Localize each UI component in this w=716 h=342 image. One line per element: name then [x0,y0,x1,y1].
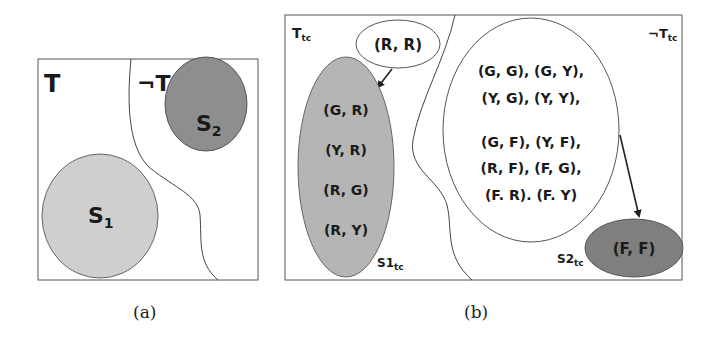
rr-node-text: (R, R) [374,36,422,54]
big-set-line: (G, G), (G, Y), [478,63,584,79]
s2tc-item: (F, F) [613,240,656,258]
set-s2 [165,57,247,151]
big-set [443,18,619,242]
big-set-line: (F. R). (F. Y) [485,187,577,203]
big-set-line: (G, F), (Y, F), [481,134,581,150]
panel-a: T ¬T S1 S2 (a) [38,57,258,322]
s1tc-item: (R, Y) [324,222,368,238]
s1tc-item: (Y, R) [325,142,367,158]
panel-b: (R, R) (G, R) (Y, R) (R, G) (R, Y) S1tc … [285,15,683,322]
region-t-label: T [44,70,61,98]
caption-a: (a) [133,302,156,322]
region-not-t-label: ¬T [137,71,170,96]
big-set-line: (Y, G), (Y, Y), [482,90,581,106]
big-set-line: (R, F), (F, G), [481,160,582,176]
s1tc-item: (R, G) [323,182,369,198]
s1tc-item: (G, R) [323,102,368,118]
diagram-canvas: T ¬T S1 S2 (a) (R, R) (G, R) (Y, R) (R, … [0,0,716,342]
set-s1tc [298,57,394,277]
caption-b: (b) [464,302,488,322]
